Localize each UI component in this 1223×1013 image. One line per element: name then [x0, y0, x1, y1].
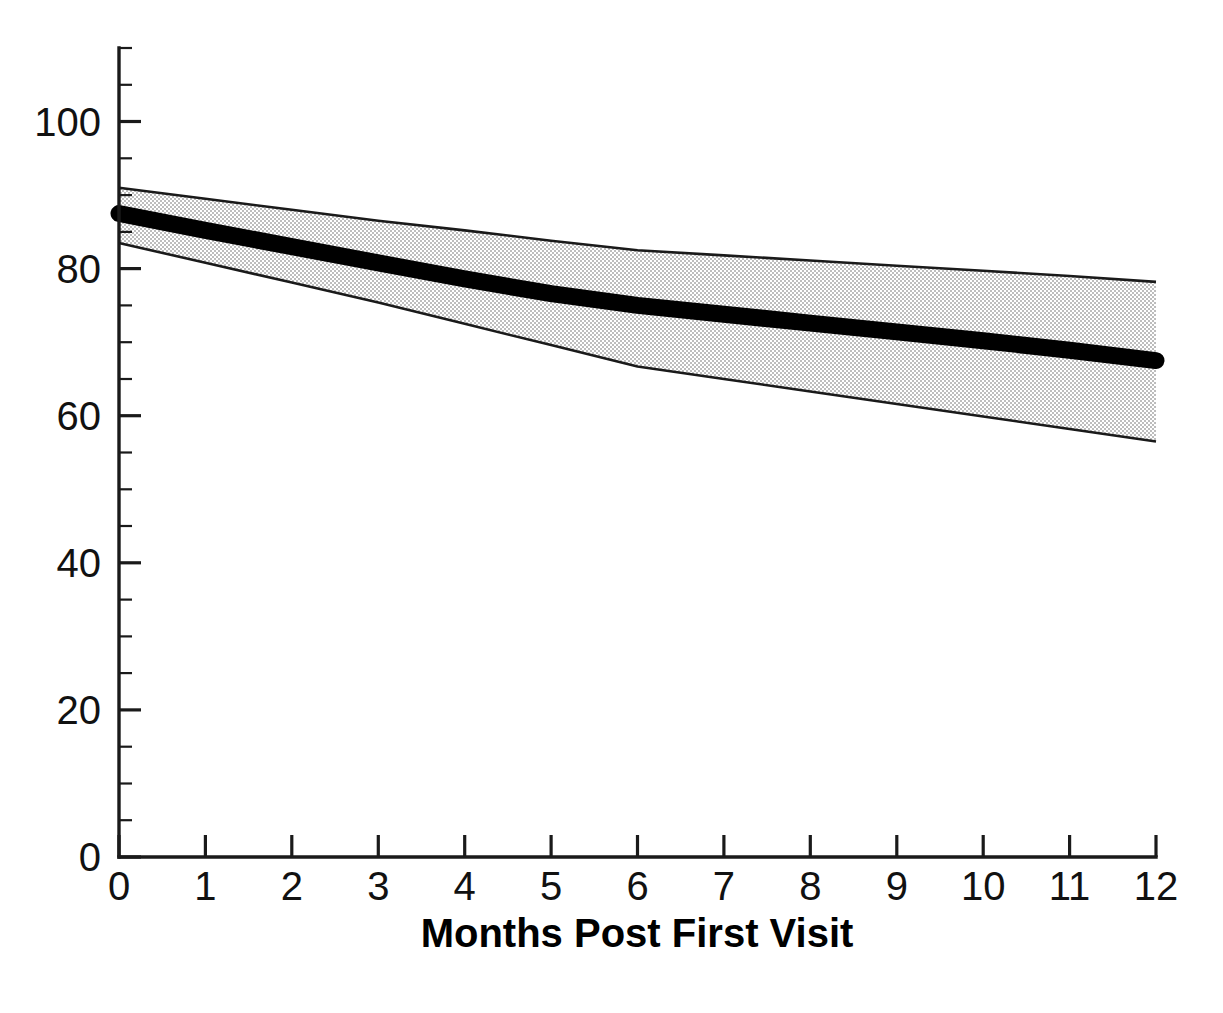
x-axis-ticks	[119, 835, 1156, 857]
x-axis-tick-label: 2	[281, 864, 303, 908]
y-axis: 020406080100	[34, 48, 141, 879]
y-axis-ticks	[119, 48, 141, 857]
y-axis-tick-label: 40	[57, 541, 102, 585]
x-axis-tick-label: 1	[194, 864, 216, 908]
x-axis-tick-labels: 0123456789101112	[108, 864, 1178, 908]
x-axis-tick-label: 10	[961, 864, 1006, 908]
x-axis: 0123456789101112	[108, 835, 1178, 908]
x-axis-tick-label: 3	[367, 864, 389, 908]
x-axis-tick-label: 8	[799, 864, 821, 908]
x-axis-tick-label: 11	[1049, 864, 1091, 908]
y-axis-tick-labels: 020406080100	[34, 100, 101, 879]
chart-figure: 020406080100 0123456789101112 Months Pos…	[0, 0, 1223, 1013]
x-axis-tick-label: 9	[886, 864, 908, 908]
line-chart-with-confidence-band: 020406080100 0123456789101112 Months Pos…	[0, 0, 1223, 1013]
x-axis-tick-label: 12	[1134, 864, 1179, 908]
x-axis-tick-label: 4	[454, 864, 476, 908]
x-axis-title: Months Post First Visit	[421, 911, 854, 955]
x-axis-tick-label: 5	[540, 864, 562, 908]
x-axis-tick-label: 6	[626, 864, 648, 908]
x-axis-tick-label: 7	[713, 864, 735, 908]
x-axis-tick-label: 0	[108, 864, 130, 908]
y-axis-tick-label: 60	[57, 394, 102, 438]
y-axis-tick-label: 20	[57, 688, 102, 732]
y-axis-tick-label: 100	[34, 100, 101, 144]
confidence-band	[119, 188, 1156, 442]
y-axis-tick-label: 80	[57, 247, 102, 291]
confidence-band-area	[119, 188, 1156, 442]
y-axis-tick-label: 0	[79, 835, 101, 879]
